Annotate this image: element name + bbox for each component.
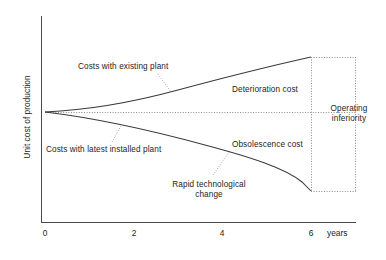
x-tick-label-2: 2 [128, 228, 140, 238]
leader-line-costs-latest-installed-plant [112, 124, 122, 142]
x-tick-label-6: 6 [305, 228, 317, 238]
operating-inferiority-line-2: inferiority [332, 114, 366, 123]
y-axis-title: Unit cost of production [22, 42, 32, 192]
x-tick-label-0: 0 [39, 228, 51, 238]
leader-line-costs-existing-plant [158, 74, 171, 92]
operating-inferiority-line-1: Operating [331, 104, 368, 113]
annotation-operating-inferiority: Operating inferiority [320, 104, 378, 124]
rapid-change-line-1: Rapid technological [172, 180, 245, 189]
chart-canvas [0, 0, 386, 260]
x-tick-label-4: 4 [216, 228, 228, 238]
rapid-change-line-2: change [195, 190, 222, 199]
annotation-costs-with-existing-plant: Costs with existing plant [78, 62, 168, 72]
annotation-obsolescence-cost: Obsolescence cost [232, 140, 303, 150]
chart-figure: Unit cost of production 0 2 4 6 years Co… [0, 0, 386, 260]
x-axis-unit-label: years [327, 228, 347, 238]
annotation-costs-with-latest-installed-plant: Costs with latest installed plant [46, 145, 161, 155]
annotation-rapid-technological-change: Rapid technological change [164, 180, 254, 200]
annotation-deterioration-cost: Deterioration cost [232, 85, 298, 95]
leader-line-rapid-technological-change [213, 152, 229, 175]
